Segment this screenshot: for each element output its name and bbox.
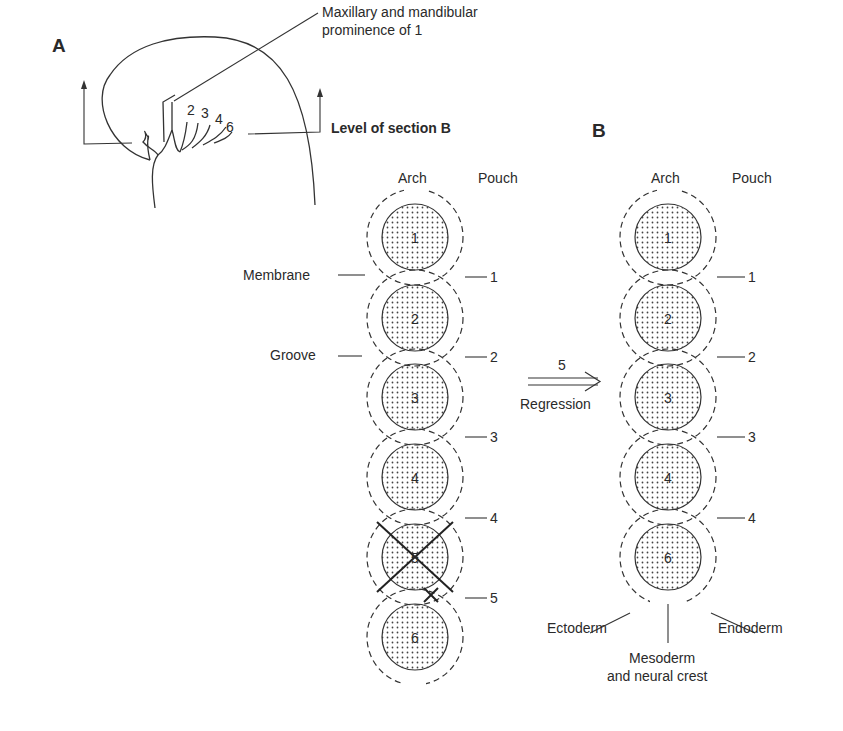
arch-number-6: 6	[226, 119, 234, 135]
section-level-label: Level of section B	[331, 120, 451, 136]
right-arch-6: 6	[664, 550, 672, 566]
right-pouch-4: 4	[748, 510, 756, 526]
groove-label: Groove	[270, 347, 316, 363]
left-arch-1: 1	[411, 230, 419, 246]
mesoderm-label-line1: Mesoderm	[629, 650, 695, 666]
right-arch-2: 2	[664, 311, 672, 327]
right-arch-1: 1	[664, 230, 672, 246]
left-arch-3: 3	[411, 390, 419, 406]
left-pouch-1: 1	[490, 269, 498, 285]
panel-a-label: A	[52, 38, 66, 54]
endoderm-label: Endoderm	[718, 620, 783, 636]
regression-number: 5	[558, 357, 566, 373]
arch-number-3: 3	[201, 105, 209, 121]
left-arch-6: 6	[411, 630, 419, 646]
callout-line	[174, 13, 318, 101]
arch-number-4: 4	[215, 111, 223, 127]
mesoderm-label-line2: and neural crest	[607, 668, 707, 684]
left-header-pouch: Pouch	[478, 170, 518, 186]
embryo-head-outline	[102, 37, 315, 208]
regression-label: Regression	[520, 396, 591, 412]
right-pouch-2: 2	[748, 349, 756, 365]
panel-b-label: B	[592, 123, 606, 139]
left-arch-5: 5	[411, 550, 419, 566]
arch-number-2: 2	[187, 102, 195, 118]
callout-line-2: prominence of 1	[322, 22, 422, 38]
right-pouch-3: 3	[748, 429, 756, 445]
callout-line-1: Maxillary and mandibular	[322, 4, 478, 20]
left-pouch-5: 5	[490, 590, 498, 606]
left-pouch-3: 3	[490, 429, 498, 445]
left-header-arch: Arch	[398, 170, 427, 186]
membrane-label: Membrane	[243, 267, 310, 283]
left-pouch-2: 2	[490, 349, 498, 365]
ectoderm-label: Ectoderm	[547, 620, 607, 636]
right-header-arch: Arch	[651, 170, 680, 186]
regression-arrow	[528, 372, 600, 391]
right-header-pouch: Pouch	[732, 170, 772, 186]
right-arch-4: 4	[664, 470, 672, 486]
left-arches-column	[367, 186, 463, 690]
right-arch-3: 3	[664, 390, 672, 406]
pharyngeal-arches-diagram	[0, 0, 843, 731]
left-pouch-4: 4	[490, 510, 498, 526]
arrow-up-icon-left	[81, 80, 87, 89]
left-arch-4: 4	[411, 470, 419, 486]
arrow-up-icon-right	[317, 88, 323, 97]
left-arch-2: 2	[411, 311, 419, 327]
right-pouch-1: 1	[748, 269, 756, 285]
